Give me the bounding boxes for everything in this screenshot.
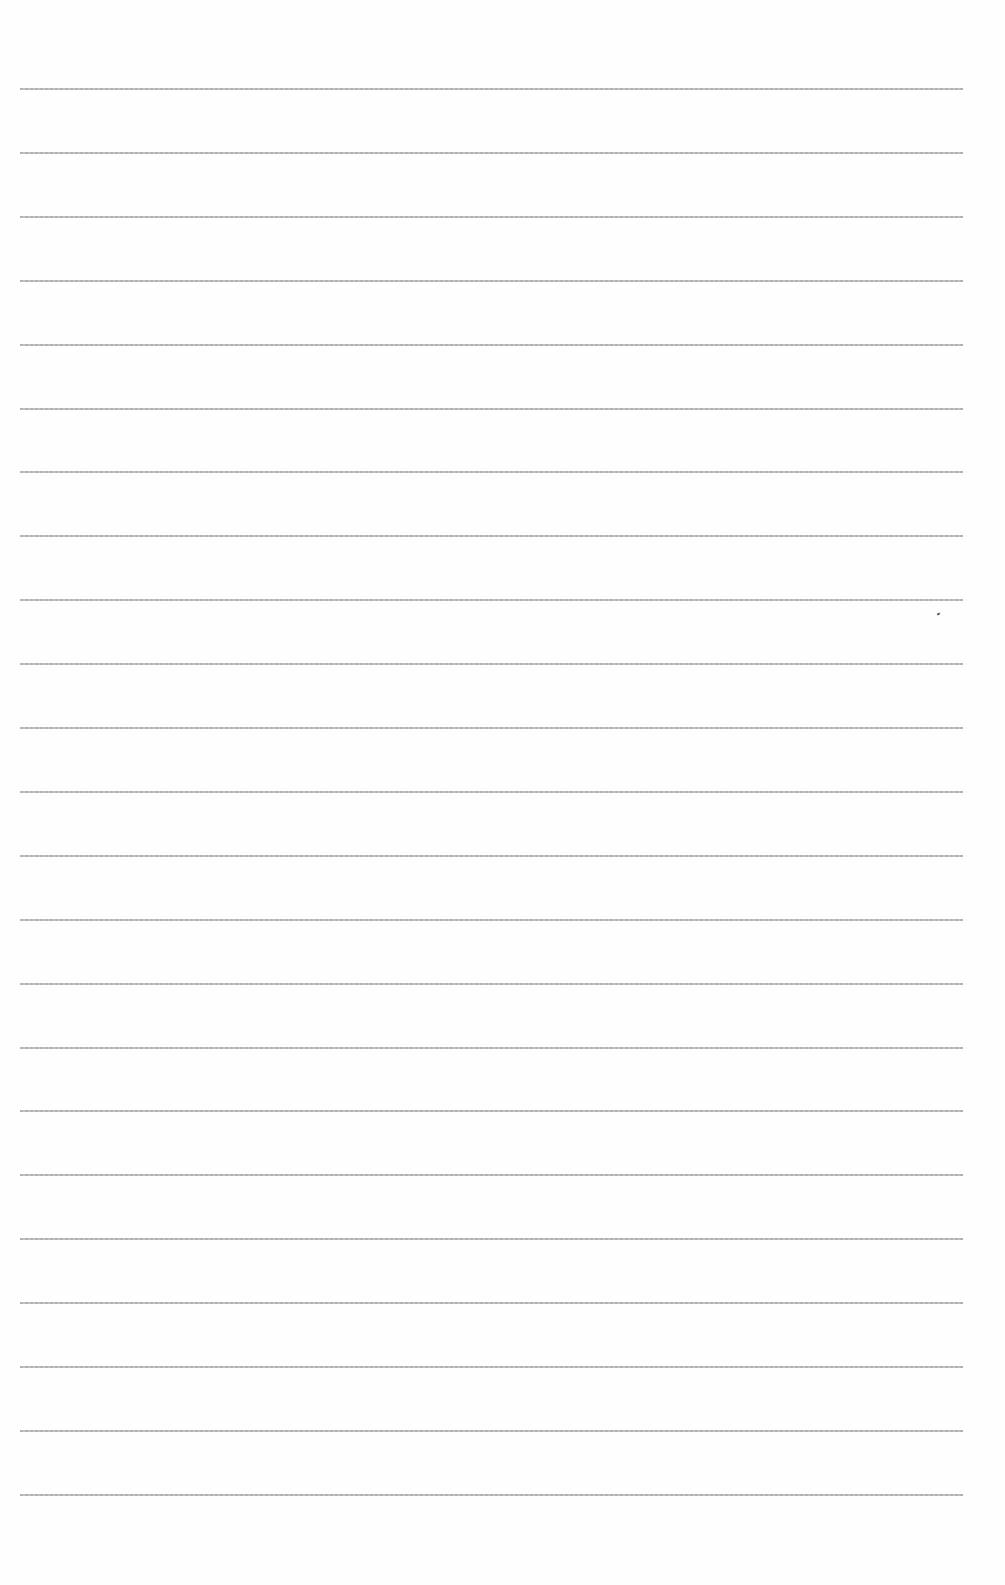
ruled-line	[20, 408, 963, 410]
ruled-line	[20, 280, 963, 282]
ruled-line	[20, 1366, 963, 1368]
ruled-paper-page	[0, 0, 1005, 1585]
ruled-line	[20, 855, 963, 857]
ruled-line	[20, 599, 963, 601]
ruled-line	[20, 727, 963, 729]
ruled-line	[20, 152, 963, 154]
ruled-line	[20, 1238, 963, 1240]
ruled-line	[20, 1302, 963, 1304]
ruled-line	[20, 919, 963, 921]
ruled-line	[20, 1110, 963, 1112]
ruled-line	[20, 791, 963, 793]
ruled-line	[20, 216, 963, 218]
ruled-line	[20, 983, 963, 985]
ruled-line	[20, 344, 963, 346]
ruled-line	[20, 88, 963, 90]
ruled-line	[20, 1174, 963, 1176]
ruled-line	[20, 663, 963, 665]
ruled-line	[20, 1430, 963, 1432]
ruled-line	[20, 1494, 963, 1496]
ruled-line	[20, 471, 963, 473]
ruled-line	[20, 535, 963, 537]
ruled-line	[20, 1047, 963, 1049]
paper-speck	[937, 612, 941, 615]
